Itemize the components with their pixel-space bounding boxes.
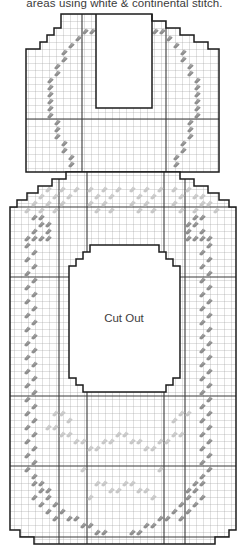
upper-notch-cutout-outline [96, 14, 152, 108]
stitch-chart-page: areas using white & continental stitch. [0, 0, 249, 559]
cut-out-label: Cut Out [104, 312, 144, 324]
stitch-chart-canvas: Cut Out [0, 0, 249, 559]
